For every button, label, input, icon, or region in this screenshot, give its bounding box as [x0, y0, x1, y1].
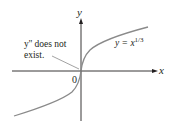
x-axis-arrow-icon	[152, 69, 158, 73]
y-axis-label: y	[76, 6, 82, 18]
x-axis-label: x	[158, 64, 164, 76]
origin-label: 0	[72, 74, 77, 85]
curve-equation-label: y = x1/3	[114, 36, 144, 48]
annotation-line-1: y'' does not	[24, 39, 67, 49]
y-axis-arrow-icon	[79, 18, 83, 24]
annotation-line-2: exist.	[24, 50, 44, 60]
cube-root-graph: y x 0 y'' does not exist. y = x1/3	[0, 0, 172, 131]
equation-base: y = x	[114, 38, 135, 48]
x-axis	[12, 69, 158, 73]
equation-exponent: 1/3	[135, 36, 144, 44]
annotation-pointer-line	[52, 56, 79, 69]
